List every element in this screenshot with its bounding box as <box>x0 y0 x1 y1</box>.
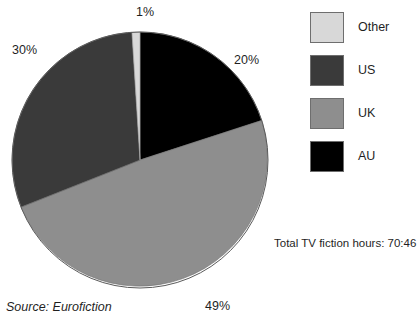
legend-label-au: AU <box>358 150 375 163</box>
legend-swatch-us-icon <box>310 55 344 86</box>
legend-swatch-other-icon <box>310 12 344 43</box>
pie-chart-figure: 1% 20% 30% 49% Other US UK AU Total TV f… <box>0 0 419 322</box>
pie-plot-area <box>0 0 280 322</box>
legend-item-us[interactable]: US <box>310 54 415 86</box>
pie-label-other-percent: 1% <box>136 6 154 19</box>
legend-item-uk[interactable]: UK <box>310 97 415 129</box>
pie-label-uk-percent: 49% <box>205 300 230 313</box>
legend-label-uk: UK <box>358 107 375 120</box>
legend-label-us: US <box>358 64 375 77</box>
legend-item-other[interactable]: Other <box>310 11 415 43</box>
chart-legend: Other US UK AU <box>310 11 415 183</box>
legend-swatch-au-icon <box>310 141 344 172</box>
total-hours-note: Total TV fiction hours: 70:46 <box>274 238 416 250</box>
legend-label-other: Other <box>358 21 389 34</box>
pie-svg <box>0 0 280 322</box>
legend-item-au[interactable]: AU <box>310 140 415 172</box>
legend-swatch-uk-icon <box>310 98 344 129</box>
pie-label-au-percent: 20% <box>234 54 259 67</box>
source-note: Source: Eurofiction <box>6 301 112 314</box>
pie-label-us-percent: 30% <box>12 44 37 57</box>
